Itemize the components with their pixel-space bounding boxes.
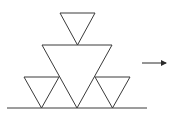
triangle-stack-diagram — [0, 0, 175, 124]
top-triangle — [60, 13, 95, 45]
left-small-triangle — [24, 77, 59, 108]
right-small-triangle — [95, 77, 130, 108]
